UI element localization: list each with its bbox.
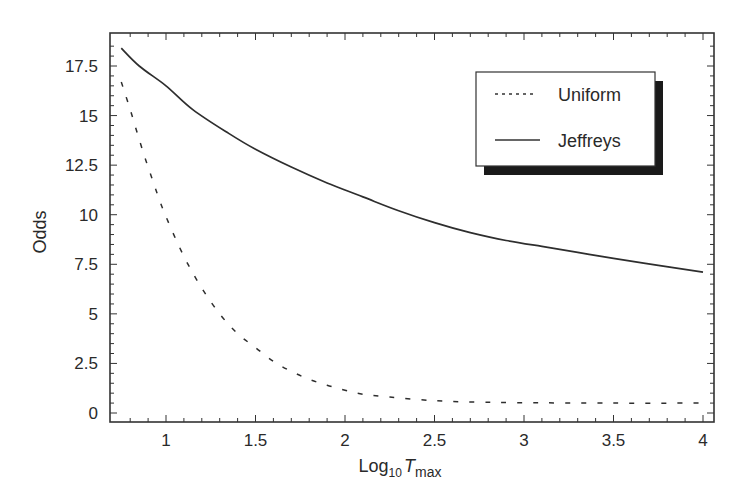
x-tick-label: 2 [340,431,349,450]
legend: Uniform Jeffreys [476,72,663,175]
legend-label-jeffreys: Jeffreys [558,131,621,151]
x-tick-label: 3.5 [602,431,626,450]
x-tick-label: 2.5 [423,431,447,450]
y-tick-label: 7.5 [74,255,98,274]
x-tick-label: 4 [698,431,707,450]
x-axis-label: Log10Tmax [359,456,442,480]
x-label-log: Log [359,456,389,476]
odds-chart: 11.522.533.54 02.557.51012.51517.5 Odds … [0,0,745,502]
y-tick-label: 15 [79,107,98,126]
x-tick-label: 1 [161,431,170,450]
x-label-sub-10: 10 [389,466,403,480]
y-tick-label: 17.5 [65,57,98,76]
y-tick-label: 0 [89,404,98,423]
y-tick-label: 2.5 [74,354,98,373]
y-tick-label: 5 [89,305,98,324]
y-tick-label: 12.5 [65,156,98,175]
y-tick-label: 10 [79,206,98,225]
legend-label-uniform: Uniform [558,85,621,105]
y-axis-label: Odds [30,210,50,253]
x-tick-label: 3 [519,431,528,450]
x-label-sub-max: max [415,464,441,480]
x-tick-label: 1.5 [244,431,268,450]
